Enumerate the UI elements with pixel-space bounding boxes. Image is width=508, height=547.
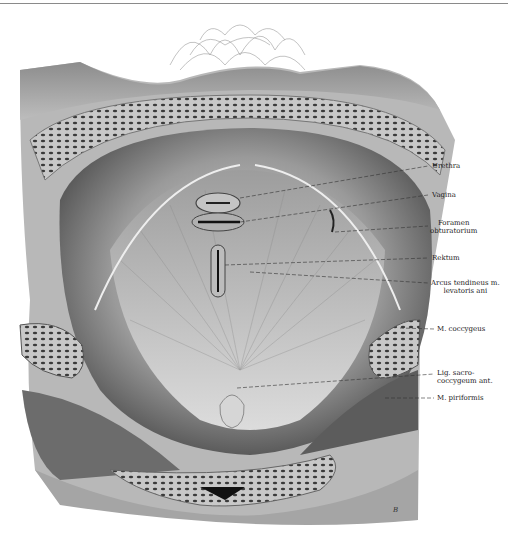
label-vagina: Vagina <box>432 191 456 199</box>
pubic-hair <box>170 25 305 70</box>
coccyx <box>220 395 244 428</box>
artist-signature: B <box>392 506 398 514</box>
label-m-piriformis: M. piriformis <box>437 394 484 402</box>
label-lig-sacrococcygeum: Lig. sacro-coccygeum ant. <box>437 369 493 385</box>
label-foramen-obturatorium: Foramenobturatorium <box>430 219 477 235</box>
pelvic-floor-illustration: B <box>0 0 508 547</box>
label-arcus-tendineus: Arcus tendineus m.levatoris ani <box>431 279 500 295</box>
label-m-coccygeus: M. coccygeus <box>437 325 485 333</box>
label-urethra: Urethra <box>432 162 460 170</box>
label-rektum: Rektum <box>432 254 460 262</box>
